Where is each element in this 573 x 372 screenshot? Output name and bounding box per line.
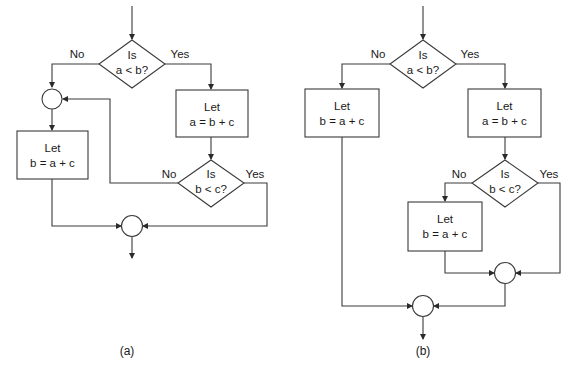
yes-label: Yes: [171, 48, 190, 60]
process-label-line2: a = b + c: [190, 116, 235, 128]
yes-branch-line: [165, 64, 211, 89]
process-label-line2: a = b + c: [482, 115, 527, 127]
panel-caption: (a): [120, 344, 135, 358]
decision-a-less-than-b: Is a < b?: [99, 40, 165, 88]
yes-label: Yes: [246, 168, 265, 180]
decision-label-line1: Is: [501, 168, 510, 180]
process-a-equals-b-plus-c: Let a = b + c: [176, 90, 248, 137]
no-label: No: [70, 48, 85, 60]
yes-label: Yes: [540, 168, 559, 180]
process-join-line: [52, 179, 121, 226]
decision-label-line2: a < b?: [116, 64, 148, 76]
process-b-equals-a-plus-c: Let b = a + c: [17, 131, 88, 179]
process-label-line1: Let: [45, 142, 62, 154]
process-label-line2: b = a + c: [30, 157, 75, 169]
join-connector-circle: [122, 216, 143, 237]
inner-no-branch-line: [445, 183, 472, 201]
process-label-line2: b = a + c: [423, 228, 468, 240]
process-inner-b-equals-a-plus-c: Let b = a + c: [408, 202, 482, 251]
flowchart-figure: Is a < b? No Yes Let b = a + c Let a = b…: [0, 0, 573, 372]
decision-label-line2: b < c?: [489, 183, 521, 195]
process-join-line: [342, 137, 412, 306]
decision-b-less-than-c: Is b < c?: [178, 160, 244, 207]
connector-circle: [42, 89, 62, 109]
no-branch-line: [342, 64, 390, 88]
panel-a: Is a < b? No Yes Let b = a + c Let a = b…: [17, 6, 267, 358]
no-label: No: [162, 168, 177, 180]
process-label-line1: Let: [334, 100, 351, 112]
no-branch-line: [52, 64, 99, 87]
decision-b-less-than-c: Is b < c?: [472, 160, 538, 207]
process-label-line1: Let: [497, 100, 514, 112]
process-a-equals-b-plus-c: Let a = b + c: [468, 89, 541, 137]
process-b-equals-a-plus-c: Let b = a + c: [305, 89, 379, 137]
yes-branch-line: [456, 64, 505, 88]
process-label-line1: Let: [437, 213, 454, 225]
decision-label-line1: Is: [419, 49, 428, 61]
panel-b: Is a < b? No Yes Let b = a + c Let a = b…: [305, 6, 560, 358]
panel-caption: (b): [416, 344, 431, 358]
inner-to-outer-join-line: [434, 284, 505, 306]
no-label: No: [452, 168, 467, 180]
decision-label-line1: Is: [128, 49, 137, 61]
process-label-line2: b = a + c: [320, 115, 365, 127]
inner-join-connector-circle: [495, 263, 516, 284]
inner-process-join-line: [445, 251, 494, 273]
yes-label: Yes: [461, 48, 480, 60]
join-connector-circle: [413, 296, 434, 317]
decision-label-line2: a < b?: [407, 64, 439, 76]
process-label-line1: Let: [204, 101, 221, 113]
decision-label-line1: Is: [207, 168, 216, 180]
inner-yes-join-line: [516, 183, 560, 273]
no-label: No: [371, 48, 386, 60]
decision-label-line2: b < c?: [195, 183, 227, 195]
decision-a-less-than-b: Is a < b?: [390, 40, 456, 88]
